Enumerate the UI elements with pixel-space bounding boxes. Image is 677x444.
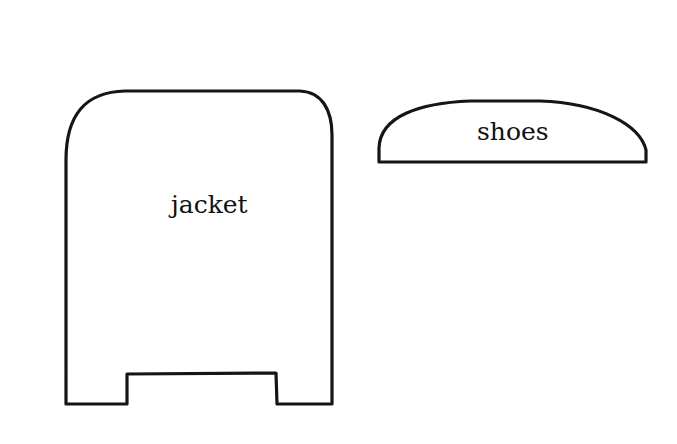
jacket-outline	[66, 91, 332, 404]
diagram-canvas	[0, 0, 677, 444]
jacket-label: jacket	[171, 192, 248, 217]
shoes-label: shoes	[477, 119, 549, 144]
